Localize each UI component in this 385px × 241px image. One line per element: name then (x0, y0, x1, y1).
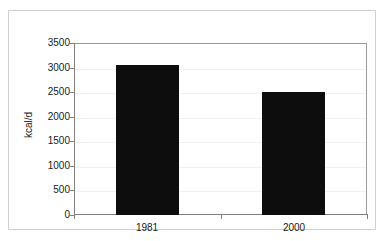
y-tick-label-wrap: 3500 (23, 38, 70, 48)
y-tick-label-wrap: 1000 (23, 161, 70, 171)
bar (116, 65, 179, 215)
y-tick-mark (70, 43, 74, 44)
y-axis-line (74, 43, 75, 215)
x-tick-label: 2000 (264, 222, 324, 233)
y-tick-mark (70, 166, 74, 167)
y-tick-mark (70, 68, 74, 69)
y-tick-label: 500 (28, 185, 70, 195)
y-tick-label-wrap: 500 (23, 185, 70, 195)
y-tick-mark (70, 117, 74, 118)
bar (262, 92, 325, 215)
y-tick-label: 0 (28, 210, 70, 220)
y-axis-title: kcal/d (23, 95, 35, 155)
y-tick-label-wrap: 3000 (23, 63, 70, 73)
x-tick-label: 1981 (117, 222, 177, 233)
y-tick-label: 3500 (28, 38, 70, 48)
y-tick-mark (70, 190, 74, 191)
chart-screenshot: 0500100015002000250030003500 kcal/d 1981… (0, 0, 385, 241)
chart-title-remnant (0, 0, 385, 8)
x-tick-mark (74, 215, 75, 219)
y-tick-mark (70, 92, 74, 93)
x-tick-mark (221, 215, 222, 219)
y-tick-label-wrap: 0 (23, 210, 70, 220)
y-tick-label: 3000 (28, 63, 70, 73)
chart-frame: 0500100015002000250030003500 kcal/d 1981… (8, 10, 376, 230)
x-tick-mark (367, 215, 368, 219)
y-tick-mark (70, 141, 74, 142)
y-tick-label: 1000 (28, 161, 70, 171)
